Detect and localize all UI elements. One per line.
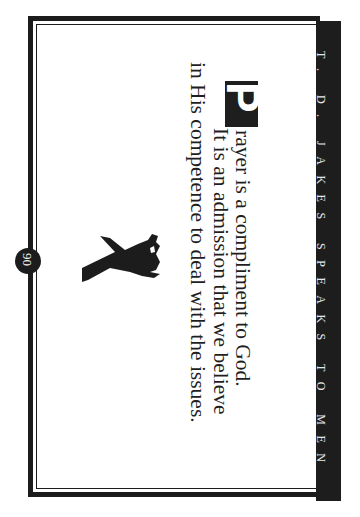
- drop-cap-box: P: [225, 81, 258, 127]
- quote-line-3: in His competence to deal with the issue…: [187, 62, 209, 423]
- running-man-icon: [70, 228, 165, 288]
- quote-line-1: rayer is a compliment to God.: [232, 130, 254, 387]
- drop-cap-letter: P: [227, 82, 259, 113]
- running-head: T. D. JAKES SPEAKS TO MEN: [313, 51, 328, 473]
- page-number: 90: [21, 253, 34, 266]
- quote-line-2: It is an admission that we believe: [210, 128, 232, 415]
